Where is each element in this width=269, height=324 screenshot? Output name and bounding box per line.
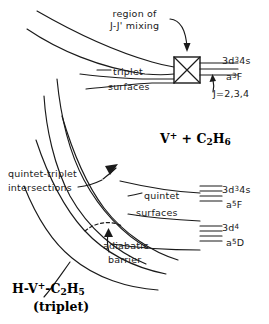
reactant-v: V <box>160 131 170 146</box>
quintet-d-term-symbol: a5D <box>226 237 244 249</box>
quintet-surfaces-label-word1: quintet <box>144 190 179 202</box>
quintet-f-term-symbol: a5F <box>226 199 242 211</box>
quintet-label-leader <box>128 193 142 196</box>
adiabatic-barrier-line2: barrier <box>108 254 141 266</box>
reactant-sub-6: 6 <box>224 137 230 147</box>
quintet-f-config-tail: 4s <box>239 184 250 195</box>
triplet-config-tail: 4s <box>239 55 250 66</box>
quintet-triplet-intersections-line1: quintet-triplet <box>8 168 77 180</box>
pes-correlation-diagram: region of J-J' mixing triplet surfaces 3… <box>0 0 269 324</box>
intersections-arrowhead <box>105 164 118 175</box>
quintet-curve-2 <box>44 96 146 264</box>
triplet-term-symbol: a3F <box>226 71 242 83</box>
quintet-d-config-sup: 4 <box>234 222 239 231</box>
quintet-d-term-letter: D <box>237 237 245 248</box>
product-spin-state-label: (triplet) <box>33 299 89 315</box>
quintet-f-config-base: 3d <box>222 184 234 195</box>
product-asymptote-label: H-V+-C2H5 <box>12 281 85 299</box>
triplet-j-values-label: J=2,3,4 <box>213 88 249 100</box>
quintet-triplet-intersections-line2: intersections <box>8 182 72 194</box>
quintet-d-config-base: 3d <box>222 222 234 233</box>
diagram-curves <box>0 0 269 324</box>
product-h: H <box>67 281 79 296</box>
triplet-term-letter: F <box>237 71 243 82</box>
region-label-line1: region of <box>110 8 159 20</box>
region-leader-arrowhead <box>184 43 191 52</box>
quintet-surfaces-label-word2: surfaces <box>136 207 178 219</box>
quintet-f-configuration-label: 3d34s <box>222 184 251 196</box>
product-dash-c: -C <box>45 281 60 296</box>
quintet-curve-5 <box>24 186 158 290</box>
adiabatic-barrier-line1: adiabatic <box>103 240 149 252</box>
region-of-jj-mixing-label: region of J-J' mixing <box>110 8 159 32</box>
reactant-h: H <box>213 131 225 146</box>
triplet-curve-2 <box>27 29 174 75</box>
triplet-surfaces-label-word1: triplet <box>113 66 143 78</box>
region-label-line2: J-J' mixing <box>110 20 159 32</box>
reactant-asymptote-label: V+ + C2H6 <box>160 131 231 149</box>
quintet-d-configuration-label: 3d4 <box>222 222 239 234</box>
triplet-configuration-label: 3d34s <box>222 55 251 67</box>
adiabatic-barrier-arrowhead <box>104 228 113 237</box>
product-sub-5: 5 <box>79 287 85 297</box>
quintet-f-term-letter: F <box>237 199 243 210</box>
reactant-plus-c: + C <box>177 131 206 146</box>
triplet-config-base: 3d <box>222 55 234 66</box>
product-hv: H-V <box>12 281 38 296</box>
triplet-surfaces-label-word2: surfaces <box>108 81 150 93</box>
